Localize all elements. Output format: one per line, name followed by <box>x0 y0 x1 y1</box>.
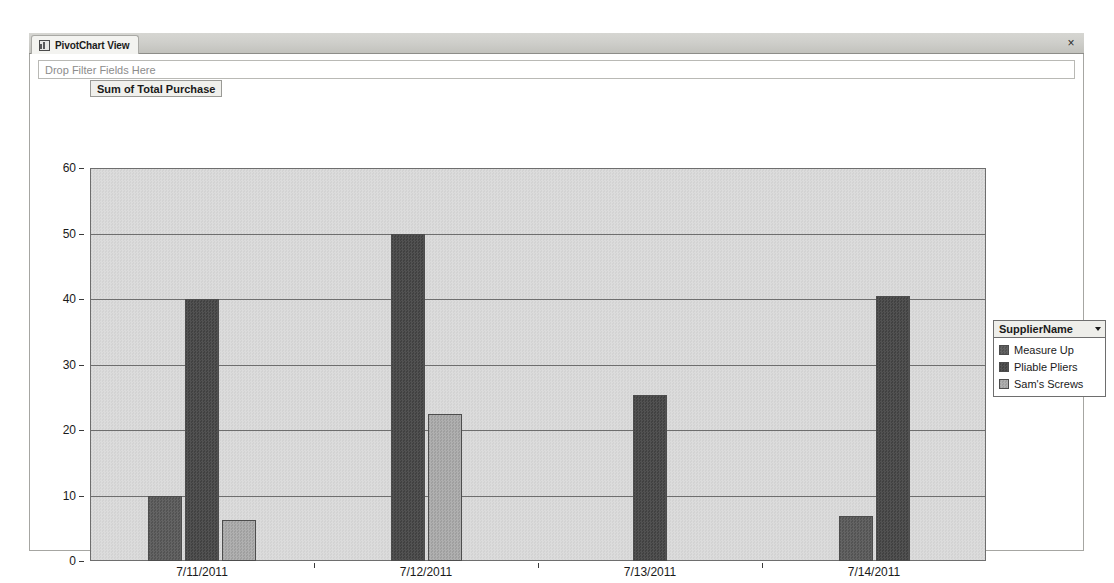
legend-swatch-icon <box>999 379 1009 389</box>
bar[interactable] <box>185 299 219 561</box>
legend-title-bar[interactable]: SupplierName <box>994 321 1105 338</box>
screenshot-root: PivotChart View × Drop Filter Fields Her… <box>0 0 1114 583</box>
legend-item-label: Pliable Pliers <box>1014 361 1078 373</box>
legend-title-label: SupplierName <box>999 323 1073 335</box>
pivotchart-window: PivotChart View × Drop Filter Fields Her… <box>29 33 1084 551</box>
legend-item-label: Sam's Screws <box>1014 378 1083 390</box>
legend-item-label: Measure Up <box>1014 344 1074 356</box>
legend-swatch-icon <box>999 345 1009 355</box>
window-client-area: Drop Filter Fields Here Sum of Total Pur… <box>29 54 1084 551</box>
bars-layer <box>90 168 986 561</box>
y-tick-mark <box>79 496 84 497</box>
filter-dropzone[interactable]: Drop Filter Fields Here <box>38 60 1075 79</box>
filter-dropzone-placeholder: Drop Filter Fields Here <box>45 64 156 76</box>
bar[interactable] <box>876 296 910 561</box>
legend-item[interactable]: Measure Up <box>999 341 1101 358</box>
bar[interactable] <box>428 414 462 561</box>
y-tick-label: 50 <box>63 227 76 241</box>
y-tick-label: 60 <box>63 161 76 175</box>
x-tick-label: 7/12/2011 <box>400 565 453 579</box>
tab-label: PivotChart View <box>55 40 129 51</box>
window-titlebar: PivotChart View × <box>29 33 1084 54</box>
x-tick-mark <box>762 563 763 568</box>
legend-item[interactable]: Pliable Pliers <box>999 358 1101 375</box>
y-tick-label: 40 <box>63 292 76 306</box>
bar[interactable] <box>222 520 256 561</box>
x-tick-mark <box>538 563 539 568</box>
bar[interactable] <box>839 516 873 561</box>
y-tick-label: 0 <box>69 554 76 568</box>
y-axis: 0102030405060 <box>30 80 84 550</box>
y-tick-label: 20 <box>63 423 76 437</box>
y-tick-label: 30 <box>63 358 76 372</box>
bar[interactable] <box>633 395 667 561</box>
y-tick-mark <box>79 430 84 431</box>
y-tick-mark <box>79 299 84 300</box>
x-tick-label: 7/13/2011 <box>624 565 677 579</box>
bar[interactable] <box>391 234 425 562</box>
tab-pivotchart-view[interactable]: PivotChart View <box>31 35 139 54</box>
chevron-down-icon[interactable] <box>1095 327 1101 331</box>
close-icon[interactable]: × <box>1063 35 1079 51</box>
legend: SupplierName Measure UpPliable PliersSam… <box>993 320 1106 397</box>
y-tick-mark <box>79 365 84 366</box>
legend-swatch-icon <box>999 362 1009 372</box>
x-tick-label: 7/14/2011 <box>848 565 901 579</box>
y-tick-label: 10 <box>63 489 76 503</box>
value-field-label: Sum of Total Purchase <box>97 83 215 95</box>
bar[interactable] <box>148 496 182 562</box>
legend-items: Measure UpPliable PliersSam's Screws <box>994 338 1105 396</box>
x-axis: 7/11/20117/12/20117/13/20117/14/2011 <box>90 563 986 583</box>
legend-item[interactable]: Sam's Screws <box>999 375 1101 392</box>
value-field-button[interactable]: Sum of Total Purchase <box>90 80 222 97</box>
y-tick-mark <box>79 561 84 562</box>
pivotchart: Sum of Total Purchase 0102030405060 7/11… <box>30 80 1083 550</box>
y-tick-mark <box>79 234 84 235</box>
y-tick-mark <box>79 168 84 169</box>
x-tick-label: 7/11/2011 <box>176 565 228 579</box>
pivotchart-icon <box>38 39 50 51</box>
x-tick-mark <box>314 563 315 568</box>
